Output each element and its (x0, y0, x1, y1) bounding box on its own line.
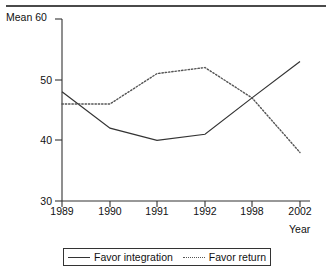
x-tick-label-1989: 1989 (42, 205, 82, 217)
legend-label-favor-integration: Favor integration (94, 251, 173, 263)
solid-line-swatch-icon (68, 257, 90, 258)
line-chart-figure: Mean 60 50 40 30 1989 1990 1991 1992 199… (0, 0, 332, 273)
x-tick-label-1998: 1998 (232, 205, 272, 217)
x-axis-title: Year (289, 223, 310, 235)
dotted-line-swatch-icon (183, 257, 205, 258)
plot-area (0, 0, 332, 273)
series-line-favor-integration (62, 61, 300, 140)
legend-entry-favor-return: Favor return (178, 251, 271, 263)
chart-legend: Favor integration Favor return (63, 248, 271, 266)
series-line-favor-return (62, 68, 300, 153)
x-tick-label-2002: 2002 (280, 205, 320, 217)
x-tick-label-1991: 1991 (137, 205, 177, 217)
legend-entry-favor-integration: Favor integration (63, 251, 178, 263)
x-tick-label-1990: 1990 (90, 205, 130, 217)
x-tick-label-1992: 1992 (185, 205, 225, 217)
legend-label-favor-return: Favor return (209, 251, 266, 263)
